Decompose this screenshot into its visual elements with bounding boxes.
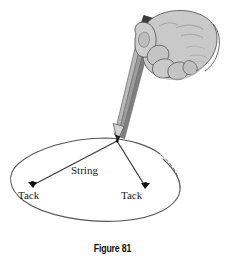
figure-ellipse-construction: String Tack Tack Figure 81 <box>0 0 225 262</box>
tack-icon-left-head <box>30 181 34 185</box>
tack-icon-right-head <box>143 182 147 186</box>
tack-markers <box>28 181 150 189</box>
label-tack-left: Tack <box>18 190 39 201</box>
label-string: String <box>71 165 98 176</box>
pencil-tip-contact-point <box>116 140 119 143</box>
figure-drawing-canvas <box>0 0 225 262</box>
hand-index-nail <box>138 32 149 47</box>
figure-caption: Figure 81 <box>14 243 212 254</box>
string-segment-right <box>117 141 145 186</box>
ellipse-solid-arc <box>11 138 180 221</box>
label-tack-right: Tack <box>121 190 142 201</box>
ellipse-group <box>11 138 180 221</box>
string-segment-left <box>33 141 117 185</box>
